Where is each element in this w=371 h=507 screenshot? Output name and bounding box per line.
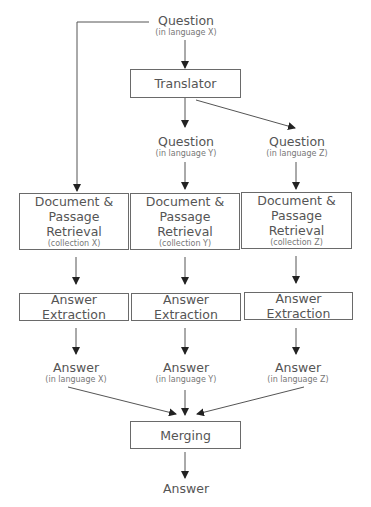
extraction-x-title: Answer Extraction bbox=[20, 292, 128, 322]
answer-z-node: Answer (in language Z) bbox=[267, 361, 328, 385]
question-z-node: Question (in language Z) bbox=[266, 135, 327, 159]
answer-z-title: Answer bbox=[267, 361, 328, 375]
extraction-y-box: Answer Extraction bbox=[131, 293, 241, 321]
answer-y-language: (in language Y) bbox=[156, 375, 217, 385]
answer-x-node: Answer (in language X) bbox=[45, 361, 106, 385]
retrieval-z-box: Document & Passage Retrieval (collection… bbox=[241, 192, 352, 249]
retrieval-y-title-line1: Document & bbox=[146, 194, 224, 209]
retrieval-x-box: Document & Passage Retrieval (collection… bbox=[19, 193, 129, 250]
answer-y-node: Answer (in language Y) bbox=[156, 361, 217, 385]
retrieval-z-title-line1: Document & bbox=[257, 193, 335, 208]
translator-box: Translator bbox=[130, 69, 241, 98]
translator-title: Translator bbox=[155, 76, 217, 91]
merging-title: Merging bbox=[160, 428, 211, 443]
question-y-language: (in language Y) bbox=[156, 149, 217, 159]
retrieval-y-collection: (collection Y) bbox=[159, 239, 211, 249]
answer-y-title: Answer bbox=[156, 361, 217, 375]
answer-x-title: Answer bbox=[45, 361, 106, 375]
question-y-title: Question bbox=[156, 135, 217, 149]
extraction-z-title: Answer Extraction bbox=[245, 291, 352, 321]
merging-box: Merging bbox=[130, 421, 241, 449]
retrieval-y-title-line2: Passage Retrieval bbox=[131, 209, 239, 239]
retrieval-z-collection: (collection Z) bbox=[270, 238, 323, 248]
extraction-x-box: Answer Extraction bbox=[19, 293, 129, 321]
question-z-language: (in language Z) bbox=[266, 149, 327, 159]
final-answer-title: Answer bbox=[163, 482, 209, 496]
question-x-title: Question bbox=[155, 14, 216, 28]
retrieval-x-title-line1: Document & bbox=[35, 194, 113, 209]
extraction-y-title: Answer Extraction bbox=[132, 292, 240, 322]
answer-z-language: (in language Z) bbox=[267, 375, 328, 385]
answer-x-language: (in language X) bbox=[45, 375, 106, 385]
retrieval-x-collection: (collection X) bbox=[48, 239, 101, 249]
retrieval-y-box: Document & Passage Retrieval (collection… bbox=[130, 193, 240, 250]
retrieval-z-title-line2: Passage Retrieval bbox=[242, 208, 351, 238]
question-y-node: Question (in language Y) bbox=[156, 135, 217, 159]
question-x-language: (in language X) bbox=[155, 28, 216, 38]
retrieval-x-title-line2: Passage Retrieval bbox=[20, 209, 128, 239]
extraction-z-box: Answer Extraction bbox=[244, 292, 353, 320]
question-x-node: Question (in language X) bbox=[155, 14, 216, 38]
final-answer-node: Answer bbox=[163, 482, 209, 496]
question-z-title: Question bbox=[266, 135, 327, 149]
